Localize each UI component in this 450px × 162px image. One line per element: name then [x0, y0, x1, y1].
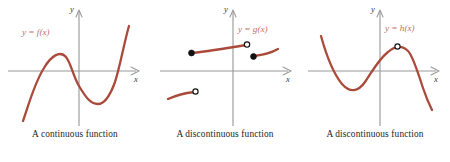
- closed-point-g-2: [251, 54, 257, 60]
- x-axis-label: x: [433, 74, 438, 84]
- caption-f: A continuous function: [32, 130, 118, 139]
- x-axis-label: x: [133, 74, 138, 84]
- y-axis-label: y: [223, 4, 228, 14]
- closed-point-g-1: [189, 50, 195, 56]
- curve-h: [321, 36, 432, 110]
- y-axis-label: y: [69, 4, 74, 14]
- open-point-g-1: [193, 89, 198, 94]
- x-axis-label: x: [285, 74, 290, 84]
- function-label-g: y = g(x): [237, 24, 268, 34]
- function-label-h: y = h(x): [384, 23, 415, 33]
- caption-h: A discontinuous function: [326, 130, 423, 139]
- open-point-g-2: [244, 42, 249, 47]
- figure-panel-f: y x y = f(x) A continuous function: [0, 0, 150, 162]
- y-axis-label: y: [370, 4, 375, 14]
- caption-g: A discontinuous function: [176, 130, 273, 139]
- figure-panel-h: y x y = h(x) A discontinuous function: [300, 0, 450, 162]
- open-point-h-1: [395, 44, 400, 49]
- function-label-f: y = f(x): [21, 27, 50, 37]
- curve-g-branch-3: [254, 49, 278, 56]
- figure-row: y x y = f(x) A continuous function y x: [0, 0, 450, 162]
- curve-f: [23, 26, 129, 121]
- plot-g: y x y = g(x): [150, 0, 300, 132]
- plot-f: y x y = f(x): [0, 0, 150, 132]
- plot-h: y x y = h(x): [300, 0, 450, 132]
- curve-g-branch-1: [168, 92, 194, 99]
- curve-g-branch-2: [192, 45, 246, 53]
- figure-panel-g: y x y = g(x) A discontinuous function: [150, 0, 300, 162]
